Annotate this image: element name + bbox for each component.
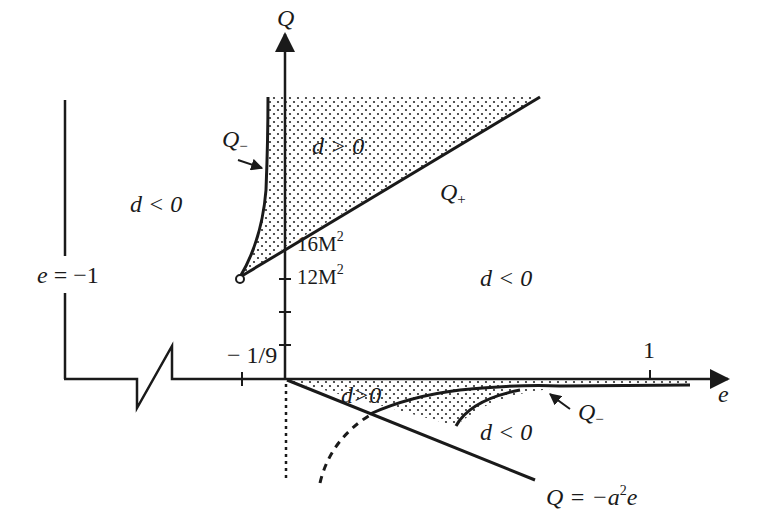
q-plus-sub: + bbox=[457, 191, 465, 207]
region-right-middle-label: d < 0 bbox=[480, 266, 532, 290]
q-minus-upper-sub: − bbox=[239, 138, 247, 154]
q-minus-lower-pointer bbox=[550, 394, 570, 409]
e-minus-one-eq: = −1 bbox=[54, 262, 99, 288]
region-upper-left-label: d < 0 bbox=[130, 192, 182, 216]
q-minus-lower-main: Q bbox=[578, 399, 595, 425]
e-minus-one-var: e bbox=[37, 262, 48, 288]
q-neg-a2e-main: Q = −a bbox=[546, 484, 620, 510]
q-neg-a2e-tail: e bbox=[627, 484, 638, 510]
region-lower-right-label: d < 0 bbox=[480, 420, 532, 444]
tick-label-12m2-sup: 2 bbox=[337, 262, 344, 277]
region-lower-shaded-label: d>0 bbox=[341, 383, 381, 407]
q-plus-main: Q bbox=[440, 179, 457, 205]
q-plus-label: Q+ bbox=[440, 180, 466, 207]
tick-label-12m2-text: 12M bbox=[297, 265, 337, 289]
tick-label-12m2: 12M2 bbox=[297, 263, 344, 288]
cusp-point bbox=[236, 275, 244, 283]
tick-label-16m2-text: 16M bbox=[297, 232, 337, 256]
e-axis-label: e bbox=[718, 382, 729, 406]
tick-label-one: 1 bbox=[643, 338, 655, 362]
q-minus-upper-main: Q bbox=[222, 126, 239, 152]
tick-label-16m2: 16M2 bbox=[297, 230, 344, 255]
q-minus-lower-label: Q− bbox=[578, 400, 604, 427]
e-minus-one-label: e = −1 bbox=[37, 263, 99, 287]
diagram-graphics bbox=[0, 0, 763, 531]
q-minus-upper-pointer bbox=[238, 160, 262, 168]
q-minus-lower-sub: − bbox=[595, 411, 603, 427]
region-upper-shaded-label: d > 0 bbox=[312, 134, 364, 158]
tick-label-minus-one-ninth: − 1/9 bbox=[227, 343, 277, 367]
tick-label-16m2-sup: 2 bbox=[337, 229, 344, 244]
q-axis-label: Q bbox=[277, 6, 294, 30]
q-neg-a2e-sup: 2 bbox=[620, 483, 627, 498]
dashed-curve bbox=[320, 415, 370, 483]
diagram: Q e − 1/9 1 16M2 12M2 e = −1 Q− Q+ Q− Q … bbox=[0, 0, 763, 531]
q-neg-a2e-label: Q = −a2e bbox=[546, 484, 637, 509]
q-minus-upper-label: Q− bbox=[222, 127, 248, 154]
